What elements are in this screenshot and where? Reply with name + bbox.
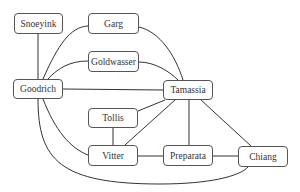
edge-goodrich-goldwasser	[48, 61, 88, 79]
node-tamassia: Tamassia	[163, 80, 213, 100]
node-goodrich: Goodrich	[13, 79, 63, 99]
edge-chiang-tamassia	[201, 100, 251, 146]
edge-goodrich-tamassia	[63, 89, 163, 90]
graph-diagram: Snoeyink Garg Goldwasser Goodrich Tamass…	[0, 0, 300, 192]
edge-garg-tamassia	[139, 27, 183, 80]
node-vitter: Vitter	[88, 145, 138, 166]
node-garg: Garg	[88, 13, 139, 34]
edge-tollis-tamassia	[138, 100, 165, 111]
node-goldwasser: Goldwasser	[88, 51, 139, 72]
node-tollis: Tollis	[88, 108, 138, 128]
node-chiang: Chiang	[238, 146, 288, 167]
edge-goodrich-vitter	[43, 99, 88, 155]
node-preparata: Preparata	[163, 145, 213, 166]
node-snoeyink: Snoeyink	[14, 13, 63, 34]
edge-goodrich-chiang	[38, 99, 248, 184]
edge-goldwasser-tamassia	[139, 62, 178, 80]
